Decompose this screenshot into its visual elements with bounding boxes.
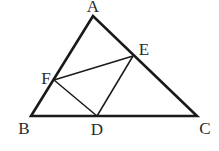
vertex-label-a: A [87,0,100,16]
point-label-e: E [139,40,149,59]
point-label-f: F [41,69,50,88]
diagram-svg: A B C D E F [0,0,219,151]
point-label-d: D [91,120,103,139]
triangle-abc [31,16,197,116]
geometry-diagram: A B C D E F [0,0,219,151]
vertex-label-c: C [199,119,210,138]
vertex-label-b: B [18,119,29,138]
segment-fd [54,80,97,116]
